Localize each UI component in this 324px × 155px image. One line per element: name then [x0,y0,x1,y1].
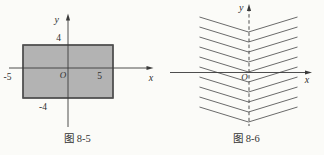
y-axis-label-right: y [238,2,244,13]
tick-label-minus4: -4 [39,102,47,112]
chevron-group [200,17,298,122]
chevron-line [200,77,298,92]
chevron-line [200,87,298,102]
x-axis-arrow-left [147,66,154,70]
chevron-line [200,47,298,62]
chevron-line [200,57,298,72]
tick-label-minus5: -5 [4,72,12,82]
y-axis-arrow-right [247,4,251,11]
caption-figure-8-6: 图 8-6 [233,133,260,144]
caption-figure-8-5: 图 8-5 [64,133,91,144]
x-axis-label-right: x [304,74,310,85]
tick-label-4: 4 [56,33,61,43]
chevron-line [200,27,298,42]
page: y x 4 -5 O 5 -4 图 8-5 y x O 图 8-6 [0,0,324,155]
chevron-line [200,107,298,122]
y-axis-arrow-left [66,14,70,21]
figure-8-5: y x 4 -5 O 5 -4 图 8-5 [4,14,154,144]
y-axis-label-left: y [54,14,60,25]
tick-label-5: 5 [97,71,102,81]
origin-label-right: O [241,72,248,82]
chevron-line [200,17,298,32]
figure-8-6: y x O 图 8-6 [170,2,312,144]
figures-svg: y x 4 -5 O 5 -4 图 8-5 y x O 图 8-6 [0,0,324,155]
chevron-line [200,37,298,52]
origin-label-left: O [60,70,67,80]
x-axis-label-left: x [148,72,154,83]
chevron-line [200,67,298,82]
chevron-line [200,97,298,112]
